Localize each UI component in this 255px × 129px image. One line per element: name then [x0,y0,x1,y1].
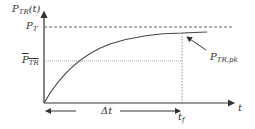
delta-t-label: Δt [101,106,112,116]
peak-pointer-arrow [187,37,206,50]
p-t-label: PT [26,21,37,33]
x-axis-label: t [238,103,242,113]
t-f-label: tf [178,112,185,124]
y-axis-label: PTR(t) [12,4,41,16]
p-tr-pk-label: PTR,pk [210,52,238,64]
p-tr-avg-label: PTR [22,55,39,67]
power-curve [44,32,207,103]
